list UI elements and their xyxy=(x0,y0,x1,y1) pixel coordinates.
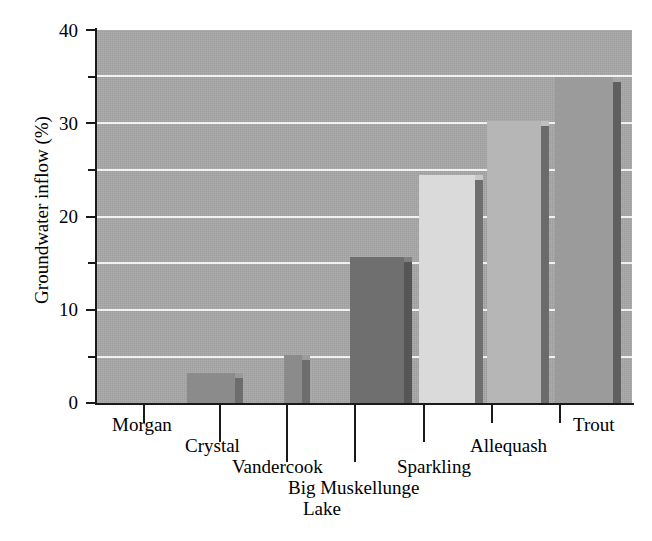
gridline-20 xyxy=(97,216,632,218)
x-tick-6 xyxy=(491,404,493,423)
x-axis-line xyxy=(95,403,634,405)
y-tick-label-10: 10 xyxy=(32,300,78,319)
x-label-trout: Trout xyxy=(573,414,615,435)
bar-face xyxy=(187,373,235,403)
bar-crystal xyxy=(187,373,243,403)
x-tick-connector-3 xyxy=(286,404,288,462)
bar-face xyxy=(487,121,541,403)
chart-figure: Groundwater inflow (%) 40 30 20 10 0 xyxy=(0,0,652,541)
y-tick-label-40: 40 xyxy=(32,21,78,40)
gridline-25 xyxy=(97,169,632,171)
x-axis-title: Lake xyxy=(303,498,341,519)
bar-face xyxy=(284,355,302,403)
gridline-30 xyxy=(97,122,632,124)
gridline-35 xyxy=(97,75,632,77)
y-axis-tick-labels: 40 30 20 10 0 xyxy=(32,0,78,541)
bar-side xyxy=(613,82,621,403)
bar-sparkling xyxy=(419,175,483,403)
x-label-big-muskellunge: Big Muskellunge xyxy=(288,477,419,498)
bar-vandercook xyxy=(284,355,310,403)
bar-face xyxy=(350,257,404,403)
bar-allequash xyxy=(487,121,549,403)
bar-face xyxy=(555,77,613,403)
y-tick-label-30: 30 xyxy=(32,114,78,133)
x-label-crystal: Crystal xyxy=(185,435,240,456)
y-tick-label-0: 0 xyxy=(32,393,78,412)
bar-face xyxy=(419,175,475,403)
x-tick-connector-5 xyxy=(423,404,425,442)
x-label-morgan: Morgan xyxy=(112,414,172,435)
y-axis-line xyxy=(95,28,97,405)
x-label-allequash: Allequash xyxy=(470,435,547,456)
x-tick-connector-4 xyxy=(354,404,356,462)
bar-big-muskellunge xyxy=(350,257,412,403)
y-tick-label-20: 20 xyxy=(32,207,78,226)
bar-side xyxy=(475,180,483,403)
bar-side xyxy=(302,360,310,403)
x-label-sparkling: Sparkling xyxy=(397,456,471,477)
bar-side xyxy=(404,262,412,403)
bar-side xyxy=(235,378,243,403)
x-label-vandercook: Vandercook xyxy=(232,456,323,477)
bar-side xyxy=(541,126,549,403)
x-tick-7 xyxy=(559,404,561,423)
plot-area xyxy=(97,30,632,403)
bar-trout xyxy=(555,77,621,403)
